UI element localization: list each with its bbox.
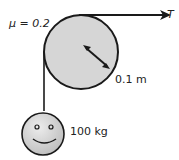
tension-label: T [167, 8, 174, 21]
mass-label: 100 kg [70, 125, 108, 138]
pulley [44, 15, 118, 89]
friction-coefficient-label: μ = 0.2 [9, 17, 50, 30]
radius-label: 0.1 m [115, 73, 147, 86]
mass-face [22, 113, 64, 155]
